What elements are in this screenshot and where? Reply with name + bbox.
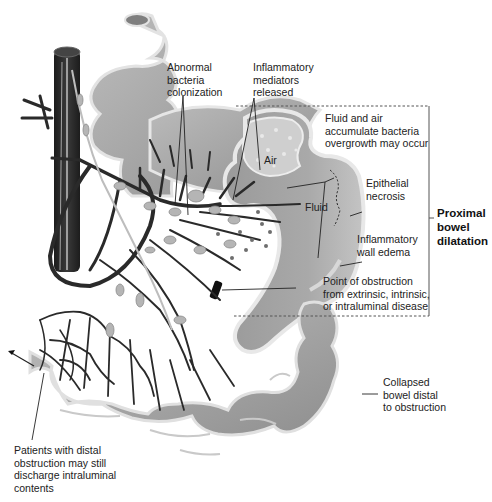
label-proximal-bowel-dilatation: Proximal bowel dilatation (437, 206, 488, 248)
label-inflammatory-mediators: Inflammatory mediators released (253, 61, 314, 99)
label-air: Air (264, 154, 277, 167)
label-abnormal-bacteria: Abnormal bacteria colonization (167, 61, 222, 99)
label-fluid: Fluid (305, 201, 328, 214)
label-distal-obstruction: Patients with distal obstruction may sti… (14, 444, 116, 494)
label-epithelial-necrosis: Epithelial necrosis (366, 177, 409, 202)
label-point-of-obstruction: Point of obstruction from extrinsic, int… (323, 275, 430, 313)
label-inflammatory-wall-edema: Inflammatory wall edema (357, 233, 418, 258)
bowel-obstruction-illustration (0, 0, 492, 502)
label-fluid-air-accumulate: Fluid and air accumulate bacteria overgr… (325, 112, 428, 150)
label-collapsed-bowel: Collapsed bowel distal to obstruction (383, 376, 446, 414)
